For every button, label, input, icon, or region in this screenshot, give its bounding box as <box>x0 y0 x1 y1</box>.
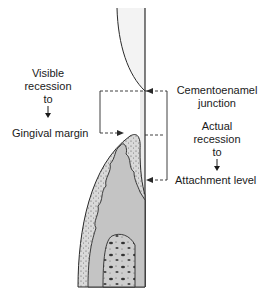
visible-recession-line3: to <box>8 93 88 106</box>
actual-recession-line1: Actual <box>175 120 259 133</box>
actual-recession-line2: recession <box>175 133 259 146</box>
actual-recession-line3: to <box>175 146 259 159</box>
arrow-to-attachment-level <box>146 177 153 183</box>
down-arrow-icon <box>213 159 221 171</box>
alveolar-bone <box>103 234 135 287</box>
actual-recession-label: Actual recession to <box>175 120 259 171</box>
cej-line1: Cementoenamel <box>175 84 259 97</box>
cementoenamel-junction-label: Cementoenamel junction <box>175 84 259 110</box>
arrow-to-cej <box>146 88 153 94</box>
arrow-to-gingival-margin <box>117 130 124 136</box>
down-arrow-icon <box>44 106 52 118</box>
gingival-margin-label: Gingival margin <box>12 127 88 140</box>
tooth-crown <box>117 8 145 91</box>
visible-recession-line1: Visible <box>8 67 88 80</box>
visible-recession-label: Visible recession to <box>8 67 88 118</box>
visible-recession-line2: recession <box>8 80 88 93</box>
cej-line2: junction <box>175 97 259 110</box>
attachment-level-label: Attachment level <box>175 174 256 187</box>
